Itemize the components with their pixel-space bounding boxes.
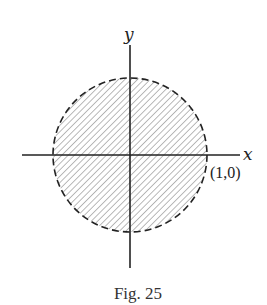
x-axis-label: x [243, 144, 253, 164]
figure-caption: Fig. 25 [114, 284, 162, 303]
point-label: (1,0) [210, 164, 241, 182]
figure-canvas: y x (1,0) Fig. 25 [0, 0, 267, 305]
y-axis-label: y [123, 24, 134, 44]
